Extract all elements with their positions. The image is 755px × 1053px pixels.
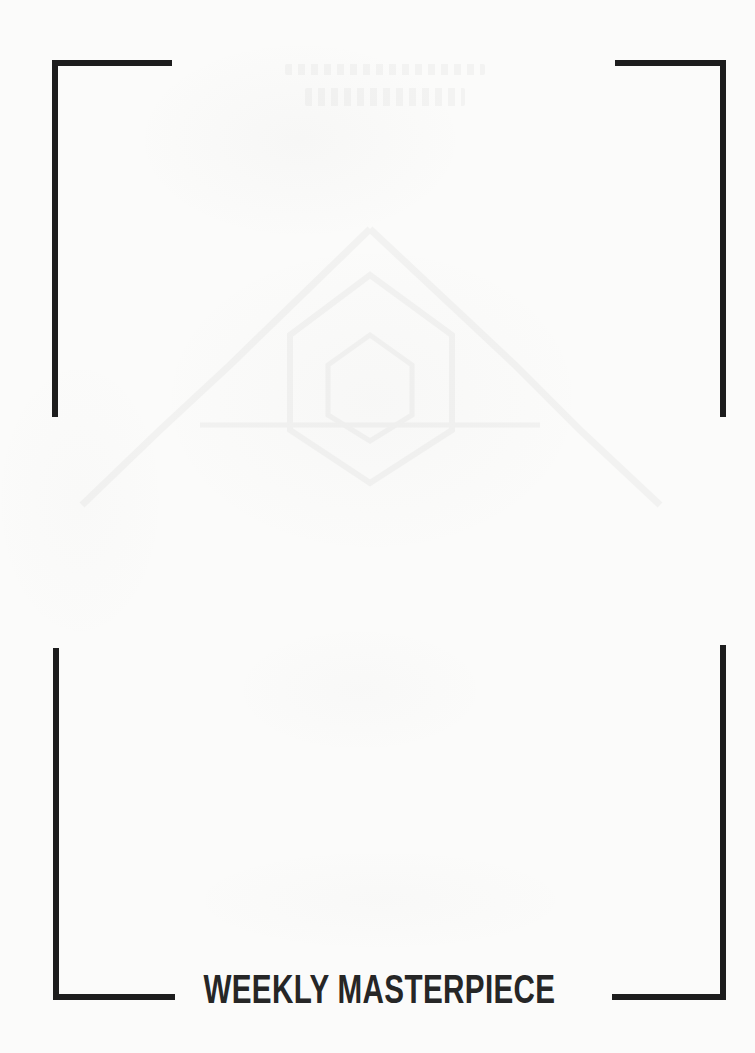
ghost-text-line	[285, 64, 485, 75]
scanned-page: WEEKLY MASTERPIECE	[0, 0, 755, 1053]
ghost-text-showthrough	[250, 58, 520, 168]
ghost-emblem-showthrough	[60, 215, 680, 515]
paper-texture	[0, 0, 755, 1053]
ghost-text-line	[305, 88, 465, 106]
page-title: WEEKLY MASTERPIECE	[100, 969, 659, 1009]
crop-mark-top-right-vertical	[720, 60, 726, 417]
crop-mark-top-left-horizontal	[52, 60, 172, 66]
crop-mark-top-right-horizontal	[615, 60, 726, 66]
crop-mark-top-left-vertical	[52, 60, 58, 417]
crop-mark-bottom-right-vertical	[720, 645, 726, 1000]
crop-mark-bottom-left-vertical	[53, 648, 59, 1000]
